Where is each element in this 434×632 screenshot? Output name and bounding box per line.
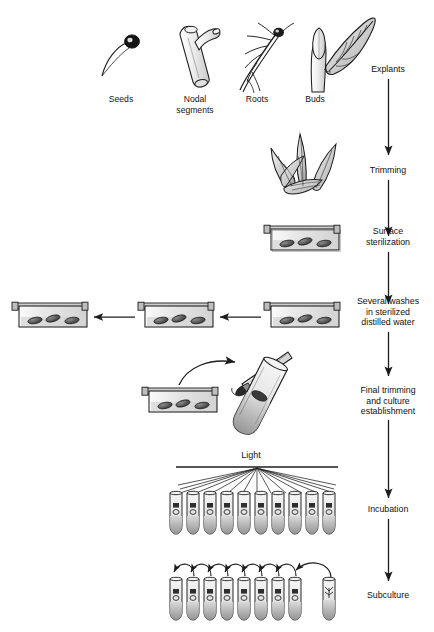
step-arrow-washes-final-trimming xyxy=(383,332,394,382)
subculture-tube-rack xyxy=(168,576,344,624)
step-label-surface-sterilization: Surface sterilization xyxy=(342,226,434,247)
explant-source-seed xyxy=(98,26,146,82)
incubation-tube-rack xyxy=(168,490,340,538)
trimmed-leaf-cluster xyxy=(256,126,352,196)
petri-dish-wash-3 xyxy=(263,298,343,336)
step-label-incubation: Incubation xyxy=(342,504,434,515)
petri-dish-wash-2 xyxy=(137,298,217,336)
step-arrow-final-trimming-incubation xyxy=(383,420,394,504)
caption-nodal-segments: Nodal segments xyxy=(160,94,230,115)
caption-roots: Roots xyxy=(226,94,288,105)
step-label-subculture: Subculture xyxy=(342,590,434,601)
step-arrow-explants-trimming xyxy=(383,79,394,161)
petri-dish-sterilization xyxy=(263,221,343,259)
wash-arrow-middle-to-left xyxy=(89,310,137,324)
caption-seeds: Seeds xyxy=(90,94,152,105)
petri-dish-wash-1 xyxy=(11,298,91,336)
culture-tube-tilted xyxy=(243,355,317,447)
wash-arrow-right-to-middle xyxy=(215,310,263,324)
light-label: Light xyxy=(226,450,276,461)
step-label-trimming: Trimming xyxy=(342,165,434,176)
explant-source-bud xyxy=(284,14,380,98)
step-label-final-trimming: Final trimming and culture establishment xyxy=(342,385,434,417)
step-arrow-incubation-subculture xyxy=(383,519,394,587)
caption-buds: Buds xyxy=(288,94,342,105)
step-label-explants: Explants xyxy=(342,64,434,75)
subculture-fresh-tube xyxy=(323,577,335,620)
step-label-several-washes: Several washes in sterilized distilled w… xyxy=(342,296,434,328)
explant-source-nodal-segment xyxy=(166,20,224,92)
